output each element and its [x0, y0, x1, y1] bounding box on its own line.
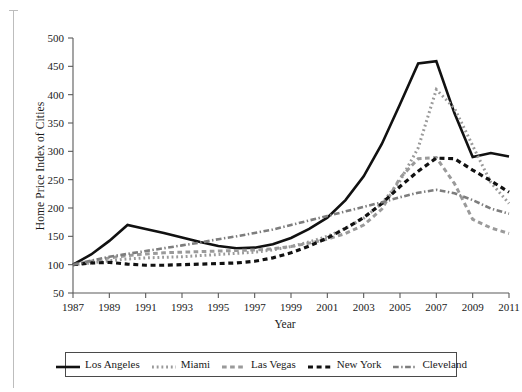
legend-line-swatch-miami — [151, 359, 177, 371]
legend-label-new-york: New York — [337, 359, 382, 370]
legend-line-swatch-los-angeles — [55, 359, 81, 371]
line-chart-figure: Home Price Index of Cities Year 50100150… — [0, 0, 522, 392]
chart-legend: Los AngelesMiamiLas VegasNew YorkClevela… — [65, 352, 457, 377]
figure-page: Home Price Index of Cities Year 50100150… — [0, 0, 522, 392]
y-tick-label: 150 — [18, 230, 64, 242]
x-tick-label: 2001 — [316, 301, 338, 313]
legend-line-swatch-cleveland — [392, 359, 418, 371]
x-tick-label: 1987 — [62, 301, 84, 313]
y-tick-label: 400 — [18, 89, 64, 101]
plot-canvas — [0, 0, 522, 392]
legend-item-las-vegas[interactable]: Las Vegas — [221, 359, 296, 371]
y-tick-label: 250 — [18, 174, 64, 186]
legend-label-los-angeles: Los Angeles — [85, 359, 140, 370]
legend-item-los-angeles[interactable]: Los Angeles — [55, 359, 140, 371]
y-tick-label: 100 — [18, 259, 64, 271]
x-tick-label: 1995 — [207, 301, 229, 313]
x-tick-label: 2005 — [389, 301, 411, 313]
series-line-los-angeles — [73, 61, 509, 264]
x-tick-label: 2003 — [353, 301, 375, 313]
series-line-new-york — [73, 158, 509, 265]
legend-label-cleveland: Cleveland — [422, 359, 467, 370]
legend-label-miami: Miami — [181, 359, 210, 370]
x-tick-label: 2007 — [425, 301, 447, 313]
legend-line-swatch-las-vegas — [221, 359, 247, 371]
x-tick-label: 2011 — [498, 301, 520, 313]
x-tick-label: 1997 — [244, 301, 266, 313]
x-tick-label: 1991 — [135, 301, 157, 313]
x-tick-label: 1999 — [280, 301, 302, 313]
y-tick-label: 300 — [18, 145, 64, 157]
legend-item-miami[interactable]: Miami — [151, 359, 210, 371]
legend-label-las-vegas: Las Vegas — [251, 359, 296, 370]
y-tick-label: 450 — [18, 60, 64, 72]
x-tick-label: 2009 — [462, 301, 484, 313]
y-tick-label: 350 — [18, 117, 64, 129]
x-tick-label: 1989 — [98, 301, 120, 313]
x-axis-title: Year — [60, 318, 510, 330]
series-line-las-vegas — [73, 158, 509, 265]
y-tick-label: 50 — [18, 287, 64, 299]
x-tick-label: 1993 — [171, 301, 193, 313]
legend-line-swatch-new-york — [307, 359, 333, 371]
legend-item-new-york[interactable]: New York — [307, 359, 382, 371]
legend-item-cleveland[interactable]: Cleveland — [392, 359, 467, 371]
y-tick-label: 500 — [18, 32, 64, 44]
y-tick-label: 200 — [18, 202, 64, 214]
